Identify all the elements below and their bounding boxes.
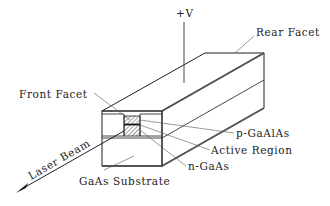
n-gaas-layer bbox=[124, 125, 140, 136]
laser-beam-arrowhead-icon bbox=[16, 183, 28, 193]
front-facet-annotation: Front Facet bbox=[19, 88, 130, 120]
substrate-annotation: GaAs Substrate bbox=[79, 156, 170, 187]
voltage-label: +V bbox=[176, 7, 194, 19]
active-region-label: Active Region bbox=[210, 144, 293, 156]
front-facet-label: Front Facet bbox=[19, 88, 88, 100]
n-layer-label: n-GaAs bbox=[188, 160, 230, 172]
rear-facet-annotation: Rear Facet bbox=[235, 26, 320, 53]
substrate-label: GaAs Substrate bbox=[79, 175, 170, 187]
top-face bbox=[102, 53, 264, 111]
p-layer-label: p-GaAlAs bbox=[236, 127, 290, 139]
laser-diode-diagram: +V Rear Facet Front Facet p-GaAlAs Activ… bbox=[0, 0, 330, 206]
rear-facet-label: Rear Facet bbox=[256, 26, 320, 38]
voltage-contact: +V bbox=[176, 7, 194, 83]
